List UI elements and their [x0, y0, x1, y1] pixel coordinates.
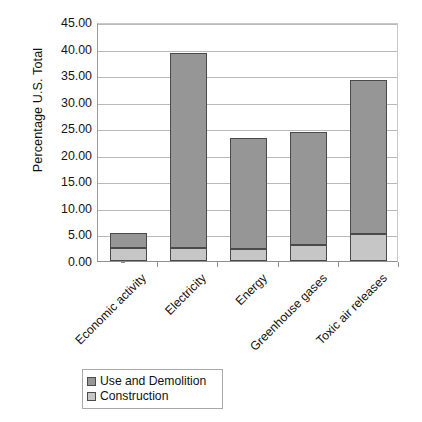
- bar-segment[interactable]: [170, 248, 207, 261]
- bar-stack[interactable]: [110, 233, 147, 261]
- legend-swatch-icon: [87, 392, 96, 401]
- bar-segment[interactable]: [110, 248, 147, 261]
- bar-stack[interactable]: [230, 138, 267, 261]
- gridline: [98, 77, 397, 78]
- bar-segment[interactable]: [230, 249, 267, 261]
- x-axis-category-label: Greenhouse gases: [221, 271, 330, 380]
- y-axis-tick-label: 10.00: [32, 203, 92, 215]
- y-axis-tick-label: 40.00: [32, 44, 92, 56]
- bar-segment[interactable]: [170, 53, 207, 248]
- x-axis-category-label: Toxic air releases: [281, 271, 390, 380]
- y-axis-tick-label: 15.00: [32, 176, 92, 188]
- y-axis-tick-label: 0.00: [32, 256, 92, 268]
- legend-item-label: Use and Demolition: [100, 375, 206, 388]
- plot-area: [97, 23, 398, 262]
- bar-segment[interactable]: [110, 233, 147, 248]
- y-axis-tick-mark: [121, 262, 125, 263]
- chart-legend: Use and DemolitionConstruction: [82, 369, 223, 409]
- y-axis-tick-label: 35.00: [32, 70, 92, 82]
- bar-stack[interactable]: [350, 80, 387, 261]
- x-axis-tick-mark: [278, 262, 279, 267]
- x-axis-tick-mark: [398, 262, 399, 267]
- y-axis-tick-label: 20.00: [32, 150, 92, 162]
- legend-item[interactable]: Use and Demolition: [87, 374, 218, 388]
- x-axis-category-label: Energy: [161, 271, 270, 380]
- gridline: [98, 24, 397, 25]
- x-axis-tick-mark: [217, 262, 218, 267]
- legend-item[interactable]: Construction: [87, 389, 218, 403]
- legend-item-label: Construction: [100, 390, 168, 403]
- bar-stack[interactable]: [290, 132, 327, 261]
- bar-segment[interactable]: [350, 80, 387, 233]
- x-axis-tick-mark: [338, 262, 339, 267]
- bar-segment[interactable]: [350, 234, 387, 261]
- y-axis-tick-label: 30.00: [32, 97, 92, 109]
- bar-segment[interactable]: [230, 138, 267, 249]
- y-axis-tick-label: 45.00: [32, 17, 92, 29]
- legend-swatch-icon: [87, 377, 96, 386]
- y-axis-tick-label: 25.00: [32, 123, 92, 135]
- gridline: [98, 51, 397, 52]
- x-axis-category-label: Electricity: [100, 271, 209, 380]
- y-axis-tick-label: 5.00: [32, 229, 92, 241]
- bar-segment[interactable]: [290, 132, 327, 245]
- bar-segment[interactable]: [290, 245, 327, 261]
- stacked-bar-chart: Percentage U.S. Total 45.0040.0035.0030.…: [0, 0, 422, 422]
- x-axis-tick-mark: [157, 262, 158, 267]
- bar-stack[interactable]: [170, 53, 207, 261]
